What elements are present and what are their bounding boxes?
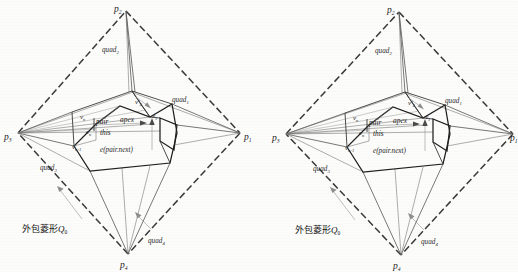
diagram-panel-right: p2 p3 p1 p4 quad2 quad1 quad3 quad4 vn v… — [259, 0, 518, 272]
diagram-panel-left: p2 p3 p1 p4 quad2 quad1 quad3 quad4 vn v… — [0, 0, 259, 272]
inner-label-this: this — [373, 129, 384, 138]
inner-label-epairnext: e(pair.next) — [373, 147, 407, 155]
v1-up-arrow — [422, 119, 427, 151]
quad-label-quad3: quad3 — [40, 164, 57, 173]
quad-label-quad2: quad2 — [375, 47, 392, 56]
v1-up-arrow — [149, 118, 154, 150]
inner-label-this: this — [100, 128, 111, 137]
inner-label-apex: apex — [393, 116, 408, 125]
inner-label-pair: pair — [95, 117, 108, 126]
quad-label-quad2: quad2 — [102, 46, 119, 55]
quad-label-quad4: quad4 — [148, 237, 165, 246]
vertex-label-p1: p1 — [243, 132, 252, 143]
vertex-label-p2: p2 — [113, 4, 122, 15]
inner-label-vn: vn — [353, 114, 359, 123]
quad4-leader — [135, 212, 151, 229]
quad-label-quad1: quad1 — [445, 97, 462, 106]
inner-label-pair: pair — [368, 118, 381, 127]
cn-annotation-leader — [57, 186, 82, 219]
inner-label-vn: vn — [80, 113, 86, 122]
quad-label-quad1: quad1 — [172, 96, 189, 105]
quad4-leader — [408, 213, 424, 230]
apex-spokes — [286, 12, 513, 255]
inner-label-apex: apex — [120, 115, 135, 124]
vertex-label-p1: p1 — [509, 133, 518, 144]
vertex-label-p4: p4 — [392, 261, 401, 272]
quad-label-quad3: quad3 — [313, 165, 330, 174]
inner-label-v2prime: v'2 — [408, 99, 416, 108]
vertex-label-p4: p4 — [119, 260, 128, 271]
figure-canvas: p2 p3 p1 p4 quad2 quad1 quad3 quad4 vn v… — [0, 0, 518, 272]
annotation-outer-rhombus: 外包菱形Q0 — [295, 224, 341, 236]
inner-label-v2prime: v'2 — [135, 98, 143, 107]
quad-label-quad4: quad4 — [421, 238, 438, 247]
apex-spokes — [18, 11, 240, 254]
annotation-outer-rhombus: 外包菱形Q0 — [22, 223, 68, 235]
vertex-label-p3: p3 — [3, 132, 12, 143]
inner-label-epairnext: e(pair.next) — [100, 146, 134, 154]
vertex-label-p3: p3 — [271, 133, 280, 144]
vertex-label-p2: p2 — [386, 5, 395, 16]
